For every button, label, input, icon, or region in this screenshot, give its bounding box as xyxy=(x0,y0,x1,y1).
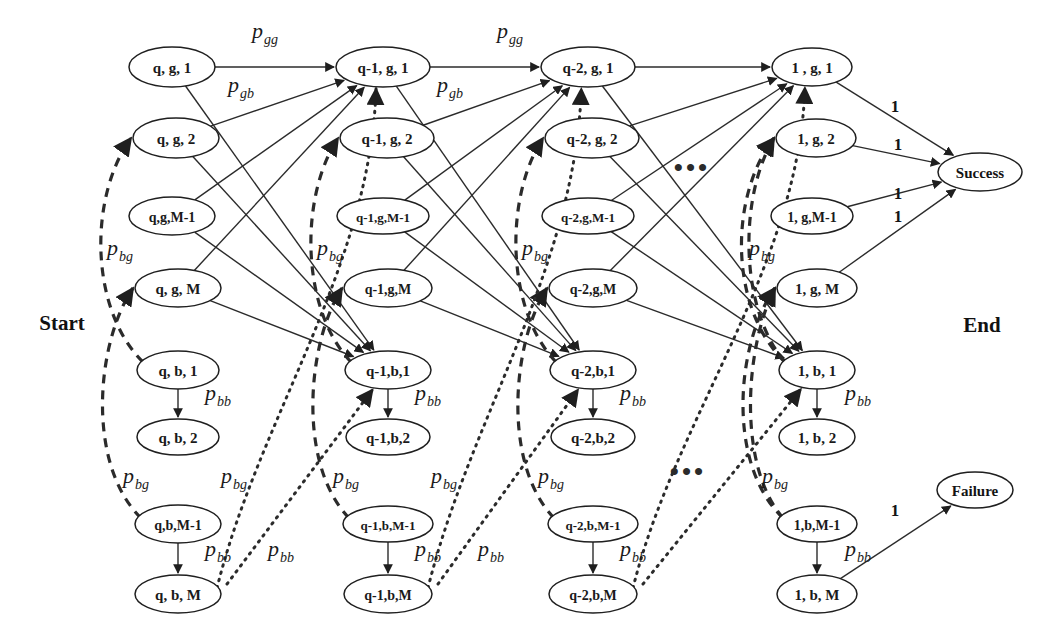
node-label: q-2, g, 1 xyxy=(563,60,614,76)
state-node-q-g-M[interactable]: q, g, M xyxy=(135,269,221,307)
node-label: 1, g, M xyxy=(795,281,839,297)
terminal-node-failure[interactable]: Failure xyxy=(937,472,1013,508)
probability-label-pbb-q1: pbb xyxy=(203,380,231,409)
ellipsis-bottom-icon: ••• xyxy=(670,457,706,486)
node-label: q-1,b,M-1 xyxy=(361,518,416,533)
state-node-q1-g-1[interactable]: q-1, g, 1 xyxy=(336,47,430,87)
node-label: q-2,b,1 xyxy=(571,363,615,379)
node-label: 1, b, M xyxy=(795,587,840,603)
probability-label-pbb-m2: pbb xyxy=(618,536,646,565)
state-node-q-b-M[interactable]: q, b, M xyxy=(135,575,221,613)
node-label: q-1, g, 2 xyxy=(362,131,413,147)
probability-label-pbg-l3: pbg xyxy=(760,463,788,492)
terminal-label: Failure xyxy=(952,483,999,499)
state-node-o-g-1[interactable]: 1 , g, 1 xyxy=(772,48,852,86)
node-label: q-1, g, 1 xyxy=(358,60,409,76)
probability-label-pbg-d1: pbg xyxy=(429,463,457,492)
state-node-o-b-1[interactable]: 1, b, 1 xyxy=(779,351,855,389)
weight-label-w-s4: 1 xyxy=(894,207,903,226)
probability-label-pbg-c1: pbg xyxy=(315,235,343,264)
probability-label-pbg-l1: pbg xyxy=(331,463,359,492)
edge-q2-g-2-to-o-g-1 xyxy=(629,78,776,126)
state-node-o-g-M[interactable]: 1, g, M xyxy=(777,269,857,307)
node-label: q, g, 1 xyxy=(153,60,191,76)
probability-label-pbg-c2: pbg xyxy=(520,235,548,264)
probability-label-pbb-x0: pbb xyxy=(266,536,294,565)
state-node-q2-g-M[interactable]: q-2,g,M xyxy=(549,269,637,307)
node-label: q, b, 1 xyxy=(158,363,197,379)
state-node-q1-b-2[interactable]: q-1,b,2 xyxy=(346,419,430,455)
probability-label-pgg-2: pgg xyxy=(495,18,523,47)
probability-label-pbb-m1: pbb xyxy=(413,536,441,565)
state-node-q-g-M1[interactable]: q,g,M-1 xyxy=(129,197,215,235)
state-node-q-g-2[interactable]: q, g, 2 xyxy=(133,118,219,158)
probability-label-pbg-c3: pbg xyxy=(747,235,775,264)
state-node-q2-g-2[interactable]: q-2, g, 2 xyxy=(545,118,639,158)
state-node-o-b-M[interactable]: 1, b, M xyxy=(777,575,857,613)
node-label: 1 , g, 1 xyxy=(791,60,832,76)
node-label: 1,b,M-1 xyxy=(794,518,841,533)
start-label: Start xyxy=(39,311,85,335)
node-label: q, b, M xyxy=(155,587,201,603)
node-label: q-2,g,M xyxy=(570,282,617,297)
node-label: 1, b, 1 xyxy=(798,363,836,379)
state-node-o-b-2[interactable]: 1, b, 2 xyxy=(779,419,855,455)
state-node-q1-g-M1[interactable]: q-1,g,M-1 xyxy=(337,198,429,234)
state-node-q2-g-1[interactable]: q-2, g, 1 xyxy=(541,47,635,87)
node-group: q, g, 1q, g, 2q,g,M-1q, g, Mq, b, 1q, b,… xyxy=(129,47,1022,613)
end-label: End xyxy=(963,313,1001,337)
probability-label-pbb-q4: pbb xyxy=(843,380,871,409)
node-label: q-1,b,1 xyxy=(366,363,410,379)
node-label: q-2, g, 2 xyxy=(567,131,618,147)
state-transition-diagram: q, g, 1q, g, 2q,g,M-1q, g, Mq, b, 1q, b,… xyxy=(0,0,1055,640)
node-label: q-2,b,2 xyxy=(571,430,615,446)
node-label: 1, g, 2 xyxy=(797,131,835,147)
probability-label-pbb-q3: pbb xyxy=(618,380,646,409)
probability-label-pbb-m0: pbb xyxy=(203,536,231,565)
weight-label-w-s3: 1 xyxy=(894,184,903,203)
weight-label-w-s2: 1 xyxy=(894,135,903,154)
edge-q1-g-M-to-q2-g-1 xyxy=(404,87,570,270)
probability-label-pgb-1: pgb xyxy=(226,72,254,101)
state-node-q-g-1[interactable]: q, g, 1 xyxy=(129,47,215,87)
node-label: q-2,g,M-1 xyxy=(561,210,615,225)
node-label: q, g, M xyxy=(156,281,201,297)
node-label: q-1,g,M xyxy=(365,282,412,297)
probability-label-pbg-l2: pbg xyxy=(536,463,564,492)
node-label: q,b,M-1 xyxy=(154,518,201,533)
state-node-q2-b-2[interactable]: q-2,b,2 xyxy=(551,419,635,455)
state-node-q2-b-M[interactable]: q-2,b,M xyxy=(549,575,637,613)
probability-label-pbb-m3: pbb xyxy=(843,536,871,565)
node-label: q-1,b,M xyxy=(364,588,411,603)
ellipsis-top-icon: ••• xyxy=(674,153,710,182)
state-node-q-b-2[interactable]: q, b, 2 xyxy=(137,419,219,455)
probability-label-pbg-c0: pbg xyxy=(105,235,133,264)
state-node-o-g-2[interactable]: 1, g, 2 xyxy=(776,119,856,157)
probability-label-pbg-d0: pbg xyxy=(219,463,247,492)
node-label: q-2,b,M-1 xyxy=(566,518,621,533)
diagram-canvas: q, g, 1q, g, 2q,g,M-1q, g, Mq, b, 1q, b,… xyxy=(0,0,1055,640)
probability-label-pbb-q2: pbb xyxy=(413,380,441,409)
state-node-q1-b-M[interactable]: q-1,b,M xyxy=(344,575,432,613)
state-node-q1-g-2[interactable]: q-1, g, 2 xyxy=(340,118,434,158)
probability-label-pgb-2: pgb xyxy=(435,72,463,101)
edge-q-g-2-to-q1-b-1 xyxy=(193,156,371,350)
node-label: q, g, 2 xyxy=(157,131,195,147)
node-label: 1, b, 2 xyxy=(798,430,836,446)
node-label: 1, g,M-1 xyxy=(787,210,836,225)
state-node-q1-g-M[interactable]: q-1,g,M xyxy=(344,269,432,307)
state-node-o-g-M1[interactable]: 1, g,M-1 xyxy=(771,198,853,234)
probability-label-pbg-l0: pbg xyxy=(121,463,149,492)
node-label: q-1,b,2 xyxy=(366,430,410,446)
terminal-label: Success xyxy=(956,165,1004,181)
probability-label-pbb-x1: pbb xyxy=(476,536,504,565)
terminal-node-success[interactable]: Success xyxy=(938,153,1022,191)
node-label: q,g,M-1 xyxy=(149,210,196,225)
edge-q1-g-2-to-q2-b-1 xyxy=(404,157,576,351)
state-node-q2-g-M1[interactable]: q-2,g,M-1 xyxy=(542,198,634,234)
node-label: q-1,g,M-1 xyxy=(356,210,410,225)
node-label: q, b, 2 xyxy=(158,430,197,446)
edge-q-g-M-to-q1-g-1 xyxy=(194,87,364,270)
node-label: q-2,b,M xyxy=(569,588,616,603)
probability-label-pgg-1: pgg xyxy=(250,18,278,47)
